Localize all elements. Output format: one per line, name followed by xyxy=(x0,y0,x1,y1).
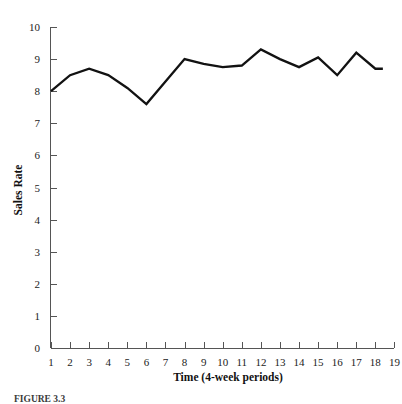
y-tick-label: 3 xyxy=(35,246,41,258)
y-tick-label: 0 xyxy=(35,342,41,354)
x-axis-tick-labels: 12345678910111213141516171819 xyxy=(48,356,400,368)
y-tick-label: 9 xyxy=(35,53,41,65)
y-tick-label: 7 xyxy=(35,117,41,129)
x-tick-label: 7 xyxy=(163,356,169,368)
y-tick-label: 2 xyxy=(35,278,41,290)
y-axis-tick-marks xyxy=(51,28,57,349)
y-tick-label: 10 xyxy=(29,21,41,33)
sales-rate-line xyxy=(51,49,383,104)
y-tick-label: 8 xyxy=(35,85,41,97)
x-tick-label: 3 xyxy=(86,356,92,368)
x-axis-title: Time (4-week periods) xyxy=(173,371,283,384)
x-tick-label: 14 xyxy=(294,356,306,368)
y-tick-label: 6 xyxy=(35,149,41,161)
x-tick-label: 6 xyxy=(144,356,150,368)
y-tick-label: 4 xyxy=(35,214,41,226)
x-axis-tick-marks xyxy=(52,342,395,348)
x-tick-label: 16 xyxy=(332,356,344,368)
x-tick-label: 9 xyxy=(201,356,207,368)
x-tick-label: 12 xyxy=(255,356,266,368)
x-tick-label: 19 xyxy=(389,356,401,368)
x-tick-label: 2 xyxy=(67,356,73,368)
x-tick-label: 15 xyxy=(313,356,325,368)
x-tick-label: 11 xyxy=(237,356,248,368)
y-axis-tick-labels: 012345678910 xyxy=(29,21,41,354)
y-axis-title: Sales Rate xyxy=(12,165,24,216)
x-tick-label: 13 xyxy=(274,356,286,368)
y-tick-label: 5 xyxy=(35,182,41,194)
x-tick-label: 5 xyxy=(125,356,131,368)
line-chart: 012345678910 123456789101112131415161718… xyxy=(0,0,402,404)
x-tick-label: 17 xyxy=(351,356,363,368)
x-tick-label: 8 xyxy=(182,356,188,368)
y-tick-label: 1 xyxy=(35,310,41,322)
x-tick-label: 4 xyxy=(105,356,111,368)
x-tick-label: 18 xyxy=(370,356,382,368)
figure-container: 012345678910 123456789101112131415161718… xyxy=(0,0,402,404)
x-tick-label: 10 xyxy=(217,356,229,368)
x-tick-label: 1 xyxy=(48,356,54,368)
figure-caption: FIGURE 3.3 xyxy=(14,394,65,404)
